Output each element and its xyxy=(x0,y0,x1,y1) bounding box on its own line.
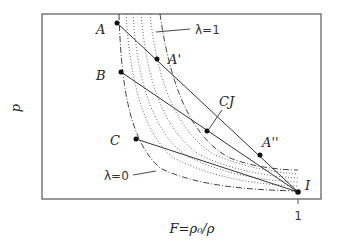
hugoniot-lambda0-curve xyxy=(119,14,298,191)
diagram-canvas: 1 p F=ρ₀/ρ A A' B CJ A'' C I λ=1 λ=0 xyxy=(0,0,344,245)
point-A-prime xyxy=(155,57,160,62)
label-A-prime: A' xyxy=(167,52,181,67)
point-A xyxy=(115,21,120,26)
label-B: B xyxy=(95,68,106,83)
point-A-double-prime xyxy=(258,153,263,158)
y-axis-label: p xyxy=(8,103,23,112)
label-A: A xyxy=(95,22,105,37)
label-lambda1: λ=1 xyxy=(195,23,220,37)
plot-frame xyxy=(42,14,321,199)
point-C xyxy=(134,137,139,142)
point-B xyxy=(119,70,124,75)
label-lambda0: λ=0 xyxy=(104,169,129,183)
hugoniot-intermediate-curve xyxy=(133,14,298,182)
x-tick-label: 1 xyxy=(294,209,302,223)
point-CJ xyxy=(205,129,210,134)
rayleigh-line-A xyxy=(117,23,298,192)
rayleigh-line-B xyxy=(121,72,298,192)
label-CJ: CJ xyxy=(219,94,235,109)
label-A-double-prime: A'' xyxy=(261,135,279,150)
label-C: C xyxy=(110,133,120,148)
lambda1-leader-line xyxy=(156,29,190,32)
label-I: I xyxy=(304,178,311,193)
point-I xyxy=(295,189,301,195)
x-axis-label: F=ρ₀/ρ xyxy=(169,221,215,236)
lambda0-leader-line xyxy=(133,171,156,175)
